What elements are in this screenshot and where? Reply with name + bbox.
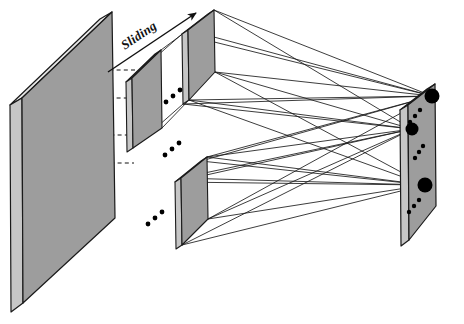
feature-map-top <box>182 10 215 104</box>
output-node-1 <box>425 89 440 104</box>
receptive-field-patch <box>126 50 162 152</box>
patch-front-face <box>132 50 162 148</box>
feature-top-front-face <box>188 10 215 100</box>
ellipsis-lower-stack <box>146 210 165 227</box>
link-top-out2 <box>214 10 412 129</box>
input-volume <box>10 12 115 312</box>
link-top-out1 <box>214 10 432 96</box>
feature-map-bottom <box>175 157 208 249</box>
link-bot-out3 <box>182 185 425 245</box>
feature-bottom-front-face <box>181 157 208 245</box>
link-bot-out2 <box>182 129 412 245</box>
ellipsis-between-patches-2 <box>163 141 182 158</box>
link-top-out1 <box>182 34 432 96</box>
link-bot-out3 <box>208 185 425 219</box>
link-top-out2 <box>189 100 412 129</box>
output-node-3 <box>418 178 433 193</box>
output-node-2 <box>406 123 419 136</box>
output-front-face <box>408 84 436 240</box>
output-layer <box>400 84 436 246</box>
link-bot-out2 <box>175 129 412 182</box>
diagram-canvas: Sliding <box>0 0 464 324</box>
network-architecture-diagram <box>0 0 464 324</box>
input-volume-side-face <box>10 98 23 312</box>
input-volume-front-face <box>22 12 115 303</box>
link-top-out1 <box>183 96 432 104</box>
link-bot-out1 <box>208 96 432 219</box>
link-bot-out3 <box>207 157 425 185</box>
ellipsis-between-patches-1 <box>164 88 183 105</box>
link-top-out1 <box>188 30 432 96</box>
link-top-out3 <box>215 72 425 185</box>
link-bot-out2 <box>208 129 412 219</box>
